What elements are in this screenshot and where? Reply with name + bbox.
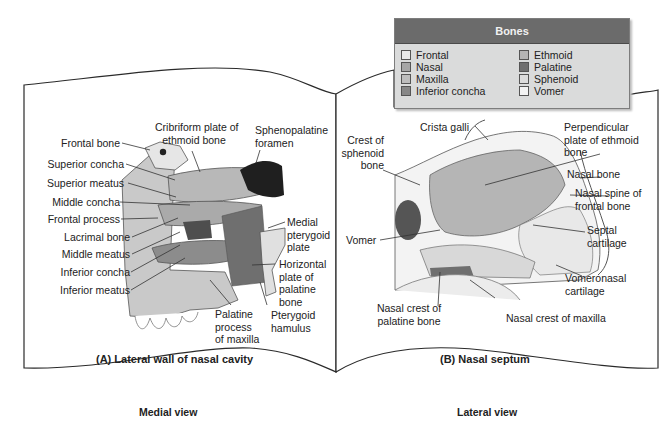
inferior-concha-swatch [401, 86, 411, 96]
legend-label: Maxilla [416, 73, 449, 85]
maxilla-swatch [401, 74, 411, 84]
label-palatine-process-maxilla: Palatine process of maxilla [215, 308, 259, 346]
caption-panel-a: (A) Lateral wall of nasal cavity [96, 353, 253, 365]
label-superior-concha: Superior concha [48, 158, 124, 171]
label-line: hamulus [271, 322, 315, 335]
label-inferior-concha: Inferior concha [61, 266, 130, 279]
label-line: Crest of [341, 134, 384, 147]
label-line: Palatine [215, 308, 259, 321]
label-line: of maxilla [215, 333, 259, 346]
label-line: plate of ethmoid [564, 134, 639, 147]
label-nasal-spine-frontal: Nasal spine of frontal bone [575, 187, 642, 212]
legend-label: Nasal [416, 61, 443, 73]
legend-item-vomer: Vomer [519, 85, 619, 97]
label-line: plate of [279, 271, 326, 284]
label-line: palatine [279, 283, 326, 296]
label-line: Horizontal [279, 258, 326, 271]
label-sphenopalatine-foramen: Sphenopalatine foramen [255, 124, 328, 149]
legend-label: Sphenoid [534, 73, 578, 85]
label-crista-galli: Crista galli [420, 121, 469, 134]
label-line: foramen [255, 137, 328, 150]
label-line: palatine bone [374, 315, 444, 328]
label-nasal-crest-palatine: Nasal crest of palatine bone [374, 302, 444, 327]
label-line: Medial [287, 216, 330, 229]
legend-label: Inferior concha [416, 85, 485, 97]
ethmoid-swatch [519, 50, 529, 60]
label-line: Nasal crest of [374, 302, 444, 315]
legend-label: Frontal [416, 49, 449, 61]
legend-item-sphenoid: Sphenoid [519, 73, 619, 85]
legend-item-inferior-concha: Inferior concha [401, 85, 519, 97]
legend-item-nasal: Nasal [401, 61, 519, 73]
label-line: frontal bone [575, 200, 642, 213]
label-perpendicular-plate: Perpendicular plate of ethmoid bone [564, 121, 639, 159]
label-superior-meatus: Superior meatus [47, 177, 124, 190]
label-septal-cartilage: Septal cartilage [587, 224, 627, 249]
label-line: process [215, 321, 259, 334]
nasal-swatch [401, 62, 411, 72]
label-line: Vomeronasal [565, 272, 626, 285]
legend-label: Vomer [534, 85, 564, 97]
label-pterygoid-hamulus: Pterygoid hamulus [271, 309, 315, 334]
legend-item-palatine: Palatine [519, 61, 619, 73]
sphenoid-swatch [519, 74, 529, 84]
legend-item-frontal: Frontal [401, 49, 519, 61]
label-line: Septal [587, 224, 627, 237]
label-line: Sphenopalatine [255, 124, 328, 137]
label-line: Pterygoid [271, 309, 315, 322]
label-line: plate [287, 241, 330, 254]
frontal-swatch [401, 50, 411, 60]
palatine-swatch [519, 62, 529, 72]
label-line: Cribriform plate of [155, 121, 233, 134]
label-line: pterygoid [287, 229, 330, 242]
label-vomeronasal-cartilage: Vomeronasal cartilage [565, 272, 626, 297]
legend-item-ethmoid: Ethmoid [519, 49, 619, 61]
view-label-medial: Medial view [139, 406, 197, 418]
label-frontal-bone: Frontal bone [61, 137, 120, 150]
label-horizontal-plate-palatine: Horizontal plate of palatine bone [279, 258, 326, 308]
label-middle-concha: Middle concha [52, 196, 120, 209]
legend-label: Palatine [534, 61, 572, 73]
legend-grid: Frontal Ethmoid Nasal Palatine Maxilla S… [401, 49, 625, 97]
label-nasal-crest-maxilla: Nasal crest of maxilla [506, 312, 606, 325]
label-line: Perpendicular [564, 121, 639, 134]
label-line: cartilage [565, 285, 626, 298]
bones-legend: Bones Frontal Ethmoid Nasal Palatine Max… [394, 18, 630, 109]
legend-title: Bones [395, 19, 629, 44]
label-medial-pterygoid-plate: Medial pterygoid plate [287, 216, 330, 254]
legend-item-maxilla: Maxilla [401, 73, 519, 85]
legend-label: Ethmoid [534, 49, 573, 61]
label-line: bone [279, 296, 326, 309]
label-nasal-bone: Nasal bone [567, 168, 620, 181]
label-line: sphenoid [341, 147, 384, 160]
label-lacrimal-bone: Lacrimal bone [64, 231, 130, 244]
label-cribriform-plate: Cribriform plate of ethmoid bone [155, 121, 233, 146]
label-vomer: Vomer [346, 234, 376, 247]
label-line: bone [341, 159, 384, 172]
label-line: bone [564, 146, 639, 159]
label-line: cartilage [587, 237, 627, 250]
label-middle-meatus: Middle meatus [62, 248, 130, 261]
caption-panel-b: (B) Nasal septum [440, 353, 530, 365]
label-line: Nasal spine of [575, 187, 642, 200]
label-frontal-process: Frontal process [48, 213, 120, 226]
label-line: ethmoid bone [155, 134, 233, 147]
view-label-lateral: Lateral view [457, 406, 517, 418]
vomer-swatch [519, 86, 529, 96]
label-crest-sphenoid: Crest of sphenoid bone [341, 134, 384, 172]
label-inferior-meatus: Inferior meatus [60, 284, 130, 297]
